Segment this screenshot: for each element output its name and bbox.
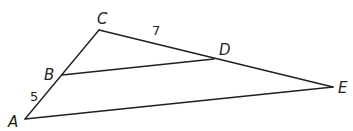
triangle-diagram: C D B A E 7 5 (0, 0, 353, 131)
measure-ab: 5 (30, 89, 38, 104)
vertex-label-e: E (338, 79, 348, 97)
vertex-label-a: A (7, 113, 18, 131)
measure-cd: 7 (152, 23, 160, 38)
vertex-label-c: C (97, 10, 108, 28)
segment-ae (25, 87, 333, 119)
vertex-label-b: B (44, 66, 54, 84)
segment-ce (99, 30, 333, 87)
segment-bd (62, 59, 214, 75)
vertex-label-d: D (219, 41, 231, 59)
